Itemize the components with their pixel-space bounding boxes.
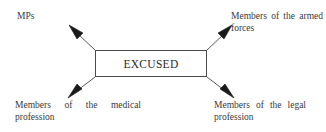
branch-label-armed-forces: Members of the armed forces: [231, 11, 323, 34]
branch-label-legal: Members of the legal profession: [214, 100, 306, 123]
arrowhead-down-right: [220, 84, 234, 98]
arrow-up-right: [207, 25, 232, 50]
arrowhead-up-right: [218, 25, 232, 39]
arrow-down-left: [68, 77, 95, 98]
arrowhead-down-left: [68, 84, 82, 98]
arrow-down-right: [207, 77, 234, 98]
arrow-up-left: [69, 25, 95, 50]
excused-node-label: EXCUSED: [95, 50, 207, 77]
branch-label-medical: Members of the medical profession: [15, 100, 141, 123]
branch-label-mps: MPs: [17, 11, 87, 23]
diagram-canvas: EXCUSED MPs Members of the armed forces …: [0, 0, 326, 132]
